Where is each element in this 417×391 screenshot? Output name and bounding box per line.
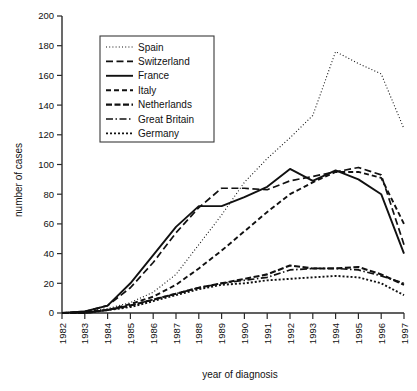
y-tick-label: 140 <box>38 100 54 111</box>
chart-legend: SpainSwitzerlandFranceItalyNetherlandsGr… <box>100 36 214 142</box>
x-tick-label: 1982 <box>57 323 68 344</box>
legend-label-spain: Spain <box>138 42 164 53</box>
legend-label-switzerland: Switzerland <box>138 56 190 67</box>
y-tick-label: 40 <box>43 248 54 259</box>
x-tick-label: 1990 <box>239 323 250 344</box>
y-tick-label: 180 <box>38 40 54 51</box>
x-tick-label: 1994 <box>330 323 341 344</box>
x-axis: 1982198319841985198619871988198919901991… <box>57 313 410 344</box>
line-chart: 020406080100120140160180200 198219831984… <box>0 0 417 391</box>
x-tick-label: 1995 <box>353 323 364 344</box>
x-tick-label: 1997 <box>399 323 410 344</box>
x-tick-label: 1983 <box>79 323 90 344</box>
legend-label-france: France <box>138 70 170 81</box>
y-tick-label: 0 <box>49 307 54 318</box>
y-tick-label: 160 <box>38 70 54 81</box>
y-tick-label: 60 <box>43 218 54 229</box>
y-tick-label: 100 <box>38 159 54 170</box>
x-tick-label: 1985 <box>125 323 136 344</box>
y-tick-label: 20 <box>43 278 54 289</box>
legend-label-germany: Germany <box>138 128 179 139</box>
y-axis-title: number of cases <box>13 143 24 217</box>
series-line-italy <box>62 172 404 313</box>
series-line-netherlands <box>62 265 404 313</box>
legend-label-italy: Italy <box>138 85 156 96</box>
x-tick-label: 1991 <box>262 323 273 344</box>
x-axis-title: year of diagnosis <box>202 369 278 380</box>
chart-canvas: 020406080100120140160180200 198219831984… <box>0 0 417 391</box>
y-tick-label: 200 <box>38 10 54 21</box>
x-tick-label: 1986 <box>148 323 159 344</box>
y-tick-label: 120 <box>38 129 54 140</box>
y-axis: 020406080100120140160180200 <box>38 10 62 318</box>
x-tick-label: 1984 <box>102 323 113 344</box>
x-tick-label: 1988 <box>193 323 204 344</box>
series-line-france <box>62 169 404 313</box>
legend-label-netherlands: Netherlands <box>138 99 192 110</box>
x-tick-label: 1989 <box>216 323 227 344</box>
x-tick-label: 1987 <box>171 323 182 344</box>
x-tick-label: 1996 <box>376 323 387 344</box>
y-tick-label: 80 <box>43 189 54 200</box>
x-tick-label: 1992 <box>285 323 296 344</box>
x-tick-label: 1993 <box>307 323 318 344</box>
series-line-switzerland <box>62 167 404 313</box>
series-line-great-britain <box>62 268 404 313</box>
legend-label-great-britain: Great Britain <box>138 114 194 125</box>
